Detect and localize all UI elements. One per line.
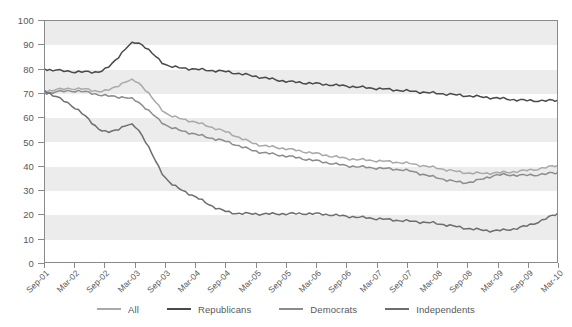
y-tick-label: 90 [23, 39, 34, 50]
y-tick-label: 50 [23, 136, 34, 147]
legend-swatch-icon [385, 308, 409, 310]
y-tick-label: 40 [23, 160, 34, 171]
legend-label: All [128, 304, 139, 315]
y-tick-label: 80 [23, 63, 34, 74]
legend-item-democrats[interactable]: Democrats [279, 304, 357, 315]
legend-label: Republicans [198, 304, 251, 315]
legend-swatch-icon [279, 308, 303, 310]
y-tick-label: 10 [23, 233, 34, 244]
y-tick-label: 60 [23, 112, 34, 123]
legend-swatch-icon [97, 308, 121, 310]
legend-label: Independents [416, 304, 475, 315]
y-tick-label: 100 [18, 15, 34, 26]
clipped-title-sliver [44, 0, 344, 3]
line-chart: 1009080706050403020100 Sep-01Mar-02Sep-0… [0, 0, 572, 327]
legend-label: Democrats [310, 304, 357, 315]
series-lines [45, 21, 557, 262]
chart-legend: AllRepublicansDemocratsIndependents [0, 300, 572, 318]
legend-item-independents[interactable]: Independents [385, 304, 475, 315]
series-line-independents [45, 91, 557, 232]
legend-item-all[interactable]: All [97, 304, 139, 315]
plot-area [44, 20, 558, 263]
y-tick-label: 20 [23, 209, 34, 220]
series-line-democrats [45, 90, 557, 183]
y-tick-label: 70 [23, 87, 34, 98]
legend-item-republicans[interactable]: Republicans [167, 304, 251, 315]
legend-swatch-icon [167, 308, 191, 310]
series-line-republicans [45, 42, 557, 101]
y-tick-label: 30 [23, 185, 34, 196]
